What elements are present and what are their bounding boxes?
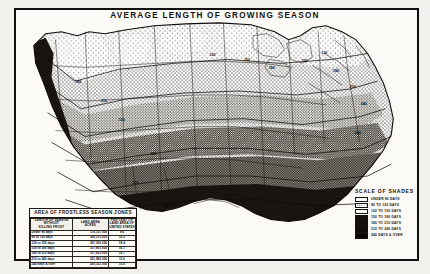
shade-label: UNDER 90 DAYS — [371, 198, 400, 201]
shade-swatch — [355, 203, 368, 208]
shade-swatch — [355, 221, 368, 226]
scale-of-shades-legend: SCALE OF SHADES UNDER 90 DAYS90 TO 120 D… — [355, 188, 414, 239]
shade-label: 150 TO 180 DAYS — [371, 216, 401, 219]
col-header-acres-line2: ACRES — [74, 224, 108, 227]
area-table-body: Under 90 days176,127,0009.6 90 to 120 da… — [31, 230, 136, 267]
isoline-label: 240 — [361, 102, 367, 106]
isoline-label: 180 — [75, 80, 81, 84]
isoline-label: 150 — [301, 59, 307, 63]
isoline-label: 240 — [355, 131, 361, 135]
isoline-label: 150 — [119, 118, 125, 122]
map-plate: AVERAGE LENGTH OF GROWING SEASON — [0, 0, 430, 274]
shade-swatch — [355, 215, 368, 220]
shade-swatch — [355, 227, 368, 232]
area-table-title: AREA OF FROSTLESS SEASON ZONES — [30, 209, 136, 218]
shade-label: 240 DAYS & OVER — [371, 234, 403, 237]
cell-percent: 10.6 — [108, 262, 135, 267]
isoline-label: 210 — [133, 181, 139, 185]
scale-of-shades-title: SCALE OF SHADES — [355, 188, 414, 194]
page-title: AVERAGE LENGTH OF GROWING SEASON — [0, 11, 430, 20]
isoline-label: 180 — [333, 69, 339, 73]
isoline-label: 120 — [321, 51, 327, 55]
col-header-acres: LAND AREA ACRES — [73, 218, 109, 230]
shade-label: 90 TO 120 DAYS — [371, 204, 399, 207]
shade-label: 120 TO 150 DAYS — [371, 210, 401, 213]
isoline-label: 150 — [244, 58, 250, 62]
area-table: LENGTH OF SEASON WITHOUT KILLING FROST L… — [30, 218, 136, 268]
shade-label: 210 TO 240 DAYS — [371, 228, 401, 231]
area-of-frostless-season-zones-table: AREA OF FROSTLESS SEASON ZONES LENGTH OF… — [29, 208, 137, 269]
shade-swatch — [355, 197, 368, 202]
isoline-label: 180 — [150, 152, 156, 156]
col-header-percent-line3: UNITED STATES — [109, 226, 134, 229]
col-header-zone: LENGTH OF SEASON WITHOUT KILLING FROST — [31, 218, 73, 230]
scale-of-shades-rows: UNDER 90 DAYS90 TO 120 DAYS120 TO 150 DA… — [355, 197, 414, 240]
cell-acres: 200,331,000 — [73, 262, 109, 267]
shade-swatch — [355, 233, 368, 238]
cell-zone: 240 days & over — [31, 262, 73, 267]
isoline-label: 210 — [350, 85, 356, 89]
isoline-label: 240 — [164, 204, 170, 208]
col-header-percent: PER CENT OF LAND AREA OF UNITED STATES — [108, 218, 135, 230]
shade-label: 180 TO 210 DAYS — [371, 222, 401, 225]
shade-swatch — [355, 209, 368, 214]
table-row: 240 days & over200,331,00010.6 — [31, 262, 136, 267]
table-header-row: LENGTH OF SEASON WITHOUT KILLING FROST L… — [31, 218, 136, 230]
isoline-label: 120 — [210, 53, 216, 57]
col-header-zone-line3: KILLING FROST — [32, 226, 72, 229]
scale-of-shades-entry: 240 DAYS & OVER — [355, 233, 414, 239]
isoline-label: 180 — [269, 66, 275, 70]
isoline-label: 210 — [101, 99, 107, 103]
